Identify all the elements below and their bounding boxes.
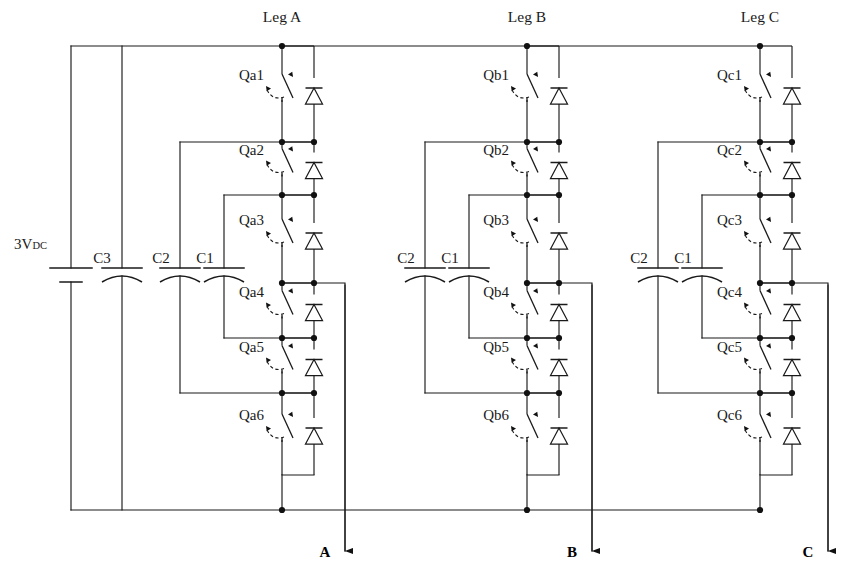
node-dot-rail-b-2 — [524, 280, 530, 286]
node-dot-rail-a-3 — [279, 335, 285, 341]
device-Qb5-gate-arrow — [533, 343, 539, 349]
device-Qc2-gate-lead — [745, 165, 762, 173]
switch-device-Qb6 — [510, 393, 567, 475]
device-Qc3-diode-body — [784, 233, 801, 249]
node-dot-rail-c-4 — [757, 390, 763, 396]
phase-output-A — [314, 283, 345, 551]
switch-device-Qc2 — [743, 142, 800, 195]
node-dot-diode-a-1 — [311, 192, 317, 198]
device-Qc4-gate-arrow — [743, 303, 749, 309]
node-dot-diode-b-4 — [556, 390, 562, 396]
cap-b-c1-label: C1 — [441, 250, 459, 266]
device-Qa4-gate-arrow — [265, 303, 271, 309]
device-Qa4-gate-arrow — [288, 288, 294, 294]
device-Qb1-blade — [527, 74, 538, 98]
switch-label-Qc2: Qc2 — [717, 142, 742, 158]
switch-device-Qa5 — [265, 338, 322, 393]
node-dot-rail-b-4 — [524, 390, 530, 396]
phase-output-C — [792, 283, 828, 551]
device-Qb4-blade — [527, 291, 538, 315]
device-Qc6-diode-body — [784, 428, 801, 444]
device-Qa1-diode-body — [306, 88, 323, 104]
device-Qa5-blade — [282, 346, 293, 370]
device-Qc2-gate-arrow — [743, 161, 749, 167]
switch-label-Qb4: Qb4 — [483, 284, 509, 300]
cap-a-c1-label: C1 — [196, 250, 214, 266]
node-dot-diode-a-0 — [311, 139, 317, 145]
capacitor-layer — [102, 276, 722, 282]
device-Qb1-gate-arrow — [533, 71, 539, 77]
device-Qb1-gate-lead — [512, 90, 529, 98]
cap-c-c2-label: C2 — [630, 250, 648, 266]
switch-device-Qc6 — [743, 393, 800, 475]
switch-label-Qb6: Qb6 — [483, 407, 509, 423]
device-Qb2-blade — [527, 149, 538, 173]
device-Qa5-gate-arrow — [265, 358, 271, 364]
device-Qb3-gate-arrow — [533, 216, 539, 222]
phase-output-B — [559, 283, 592, 551]
device-Qa2-gate-arrow — [288, 146, 294, 152]
device-Qb1-diode-body — [551, 88, 568, 104]
node-dot-diode-b-1 — [556, 192, 562, 198]
device-Qc3-gate-arrow — [766, 216, 772, 222]
device-Qb2-gate-arrow — [533, 146, 539, 152]
label-layer: 3VDCC3Leg AQa1Qa2Qa3Qa4Qa5Qa6C2C1ALeg BQ… — [14, 8, 813, 560]
device-Qb5-blade — [527, 346, 538, 370]
device-Qa6-blade — [282, 414, 293, 438]
phase-output-label-B: B — [567, 544, 577, 560]
device-Qc1-gate-arrow — [766, 71, 772, 77]
node-dot-diode-c-4 — [789, 390, 795, 396]
switch-device-Qa4 — [265, 283, 322, 338]
node-dot-rail-c-2 — [757, 280, 763, 286]
node-dot-diode-b-3 — [556, 335, 562, 341]
switch-label-Qb3: Qb3 — [483, 212, 509, 228]
device-Qa3-diode-body — [306, 233, 323, 249]
device-Qb3-blade — [527, 219, 538, 243]
device-Qc4-diode-body — [784, 305, 801, 321]
node-dot-diode-c-3 — [789, 335, 795, 341]
device-Qb4-gate-arrow — [533, 288, 539, 294]
switch-label-Qa2: Qa2 — [239, 142, 264, 158]
leg-bottom-node-c — [757, 507, 763, 513]
device-Qa2-gate-arrow — [265, 161, 271, 167]
device-Qa6-gate-lead — [267, 430, 284, 438]
switch-device-Qa6 — [265, 393, 322, 475]
switch-device-Qb1 — [510, 46, 567, 142]
switch-device-Qa3 — [265, 195, 322, 283]
node-dot-diode-a-3 — [311, 335, 317, 341]
device-Qc6-blade — [760, 414, 771, 438]
circuit-diagram-canvas: 3VDCC3Leg AQa1Qa2Qa3Qa4Qa5Qa6C2C1ALeg BQ… — [0, 0, 855, 581]
switch-label-Qa4: Qa4 — [239, 284, 264, 300]
device-Qb6-gate-arrow — [510, 426, 516, 432]
cap-b-c2-label: C2 — [397, 250, 415, 266]
leg-title-c: Leg C — [741, 8, 779, 25]
device-Qc6-gate-lead — [745, 430, 762, 438]
device-Qb5-gate-arrow — [510, 358, 516, 364]
leg-top-node-b — [524, 43, 530, 49]
device-Qa4-blade — [282, 291, 293, 315]
node-dot-rail-b-1 — [524, 192, 530, 198]
device-Qa1-gate-lead — [267, 90, 284, 98]
leg-top-node-c — [757, 43, 763, 49]
device-Qc2-gate-arrow — [766, 146, 772, 152]
device-Qc5-blade — [760, 346, 771, 370]
device-Qc1-gate-arrow — [743, 86, 749, 92]
switch-device-Qc1 — [743, 46, 800, 142]
node-dot-diode-c-1 — [789, 192, 795, 198]
device-Qa5-diode-body — [306, 360, 323, 376]
dc-source-sublabel: DC — [32, 240, 47, 251]
device-Qb6-blade — [527, 414, 538, 438]
node-dot-diode-b-0 — [556, 139, 562, 145]
switch-label-Qa3: Qa3 — [239, 212, 264, 228]
device-Qb2-gate-lead — [512, 165, 529, 173]
switch-label-Qc4: Qc4 — [717, 284, 742, 300]
device-Qa6-diode-body — [306, 428, 323, 444]
switch-label-Qb2: Qb2 — [483, 142, 509, 158]
phase-output-label-A: A — [320, 544, 331, 560]
device-Qc5-gate-arrow — [766, 343, 772, 349]
device-Qb1-gate-arrow — [510, 86, 516, 92]
node-dot-rail-a-0 — [279, 139, 285, 145]
device-Qc4-gate-arrow — [766, 288, 772, 294]
device-Qa5-gate-lead — [267, 362, 284, 370]
device-Qc2-diode-body — [784, 163, 801, 179]
